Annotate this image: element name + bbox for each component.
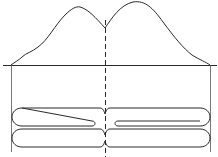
chromatid-bottom	[12, 129, 210, 147]
chromosome-distribution-diagram	[0, 0, 218, 157]
distribution-curve	[11, 2, 210, 65]
chromatid-top	[12, 108, 210, 126]
